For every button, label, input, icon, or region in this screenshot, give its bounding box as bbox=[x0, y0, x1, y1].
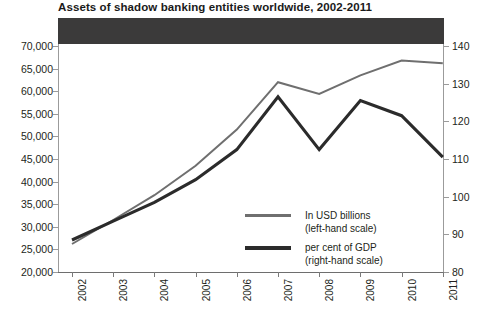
legend-label-scale: (left-hand scale) bbox=[305, 223, 383, 236]
chart-legend: In USD billions(left-hand scale)per cent… bbox=[245, 210, 383, 274]
usd-line-swatch bbox=[245, 214, 291, 217]
legend-label-scale: (right-hand scale) bbox=[305, 255, 383, 268]
gdp-line-swatch bbox=[245, 246, 291, 250]
legend-item: per cent of GDP(right-hand scale) bbox=[245, 242, 383, 267]
legend-label-primary: In USD billions bbox=[305, 210, 383, 223]
legend-label-primary: per cent of GDP bbox=[305, 242, 383, 255]
chart-page: Assets of shadow banking entities worldw… bbox=[0, 0, 502, 320]
legend-item: In USD billions(left-hand scale) bbox=[245, 210, 383, 235]
